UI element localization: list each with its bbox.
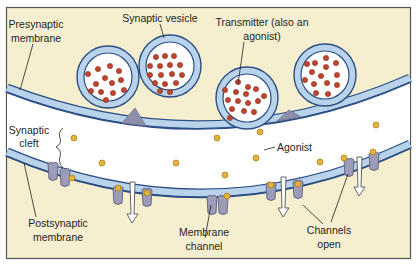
label-presynaptic-1: Presynaptic xyxy=(9,18,64,30)
synapse-diagram: Presynaptic membrane Synaptic vesicle Tr… xyxy=(0,0,416,267)
label-postsynaptic-2: membrane xyxy=(33,231,83,243)
label-membrane-channel-1: Membrane xyxy=(179,226,229,238)
label-channels-open-1: Channels xyxy=(307,224,351,236)
channel-subunit xyxy=(207,195,217,214)
label-agonist: Agonist xyxy=(277,141,312,153)
label-synaptic-cleft-2: cleft xyxy=(19,137,38,149)
vesicle-4 xyxy=(294,44,356,106)
channel-subunit xyxy=(60,168,70,186)
label-membrane-channel-2: channel xyxy=(186,240,223,252)
label-postsynaptic-1: Postsynaptic xyxy=(28,217,88,229)
label-synaptic-vesicle: Synaptic vesicle xyxy=(122,12,197,24)
vesicle-3 xyxy=(216,67,278,129)
label-synaptic-cleft-1: Synaptic xyxy=(9,124,49,136)
label-transmitter-1: Transmitter (also an xyxy=(216,16,309,28)
label-channels-open-2: open xyxy=(317,238,341,250)
channel-subunit xyxy=(48,162,58,180)
label-transmitter-2: agonist) xyxy=(243,30,280,42)
label-presynaptic-2: membrane xyxy=(11,32,61,44)
